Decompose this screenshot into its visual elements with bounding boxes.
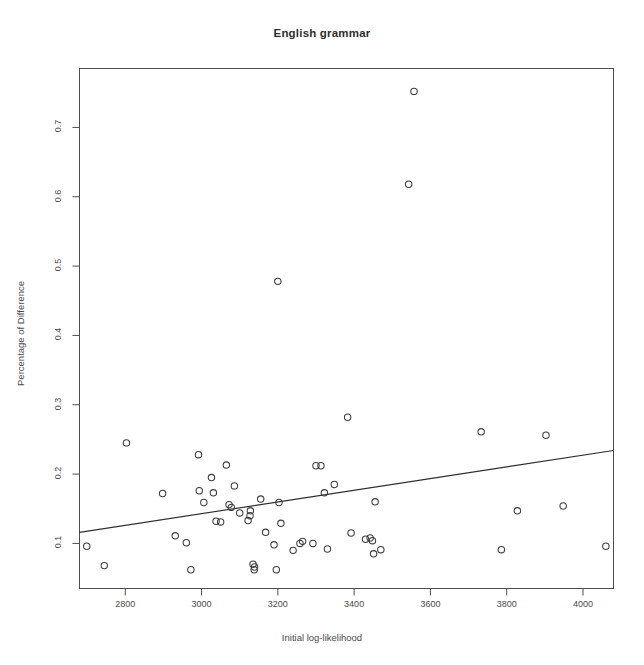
plot-frame: [80, 69, 614, 589]
x-tick-label: 2800: [115, 599, 135, 609]
x-tick-label: 3000: [192, 599, 212, 609]
y-tick-label: 0.5: [53, 253, 63, 277]
x-tick-label: 4000: [573, 599, 593, 609]
x-tick-label: 3800: [497, 599, 517, 609]
y-tick-label: 0.1: [53, 530, 63, 554]
x-tick-label: 3400: [344, 599, 364, 609]
x-tick-label: 3600: [420, 599, 440, 609]
data-points: [84, 88, 610, 573]
y-axis-ticks: [73, 127, 80, 543]
y-axis-label: Percentage of Difference: [15, 254, 26, 414]
x-axis-label: Initial log-likelihood: [0, 632, 644, 643]
y-tick-label: 0.3: [53, 392, 63, 416]
y-tick-label: 0.7: [53, 114, 63, 138]
scatter-plot-figure: English grammar 280030003200340036003800…: [0, 0, 644, 665]
plot-canvas: [0, 0, 644, 665]
x-axis-ticks: [125, 589, 583, 596]
y-tick-label: 0.6: [53, 184, 63, 208]
y-tick-label: 0.2: [53, 461, 63, 485]
y-tick-label: 0.4: [53, 322, 63, 346]
x-tick-label: 3200: [268, 599, 288, 609]
